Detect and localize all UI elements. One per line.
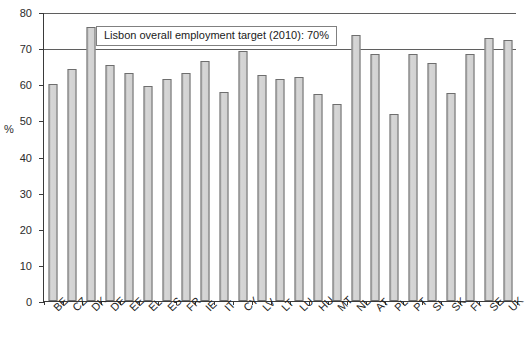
y-axis-tick-label: 30 [20, 188, 32, 200]
bar-mt [333, 104, 342, 301]
bar-pl [390, 114, 399, 301]
bar-slot [101, 13, 120, 301]
bar-slot [271, 13, 290, 301]
y-axis-tick-label: 40 [20, 152, 32, 164]
bar-slot [309, 13, 328, 301]
y-axis-tick-label: 20 [20, 224, 32, 236]
bar-de [106, 65, 115, 301]
bar-hu [314, 94, 323, 301]
bar-el [144, 86, 153, 301]
bar-slot [176, 13, 195, 301]
bar-slot [385, 13, 404, 301]
y-axis-tick: 50 [39, 121, 44, 122]
bar-sk [446, 93, 455, 301]
y-axis-tick: 60 [39, 85, 44, 86]
bar-uk [503, 40, 512, 301]
bar-slot [82, 13, 101, 301]
lisbon-target-callout: Lisbon overall employment target (2010):… [96, 26, 337, 46]
bar-ie [200, 61, 209, 301]
bar-slot [460, 13, 479, 301]
bar-es [162, 79, 171, 301]
bar-slot [252, 13, 271, 301]
bar-slot [120, 13, 139, 301]
bar-it [219, 92, 228, 301]
bar-cy [238, 51, 247, 301]
y-axis-tick: 10 [39, 266, 44, 267]
bar-fi [465, 54, 474, 301]
y-axis-tick: 40 [39, 158, 44, 159]
y-axis-tick: 70 [39, 49, 44, 50]
y-axis-tick: 20 [39, 230, 44, 231]
bar-slot [233, 13, 252, 301]
bar-slot [347, 13, 366, 301]
bar-lu [295, 77, 304, 301]
bar-pt [408, 54, 417, 301]
bar-ee [125, 73, 134, 301]
y-axis-tick-label: 10 [20, 260, 32, 272]
bar-slot [214, 13, 233, 301]
bar-slot [366, 13, 385, 301]
bar-lv [257, 75, 266, 302]
bar-dk [87, 27, 96, 301]
bar-si [427, 63, 436, 301]
bar-slot [195, 13, 214, 301]
y-axis-tick-label: 80 [20, 7, 32, 19]
y-axis-tick: 30 [39, 194, 44, 195]
bar-lt [276, 79, 285, 301]
bar-slot [422, 13, 441, 301]
x-axis-labels: BECZDKDEEEELESFRIEITCYLVLTLUHUMTNLATPLPT… [43, 305, 516, 344]
bar-se [484, 38, 493, 301]
bar-slot [403, 13, 422, 301]
bar-slot [63, 13, 82, 301]
y-axis-tick-label: 50 [20, 115, 32, 127]
y-axis-tick: 80 [39, 13, 44, 14]
bar-slot [290, 13, 309, 301]
y-axis-tick-label: 60 [20, 79, 32, 91]
bar-cz [68, 69, 77, 301]
bar-nl [352, 35, 361, 301]
bar-slot [328, 13, 347, 301]
y-axis-tick: 0 [39, 302, 44, 303]
plot-area: 01020304050607080 [43, 13, 516, 302]
bar-slot [139, 13, 158, 301]
y-axis-tick-label: 70 [20, 43, 32, 55]
bars-container [44, 13, 516, 301]
bar-slot [44, 13, 63, 301]
bar-slot [158, 13, 177, 301]
bar-slot [479, 13, 498, 301]
y-axis-tick-label: 0 [26, 296, 32, 308]
bar-slot [498, 13, 517, 301]
bar-be [49, 84, 58, 301]
bar-fr [181, 73, 190, 301]
bar-at [371, 54, 380, 301]
y-axis-title: % [4, 123, 14, 135]
bar-slot [441, 13, 460, 301]
